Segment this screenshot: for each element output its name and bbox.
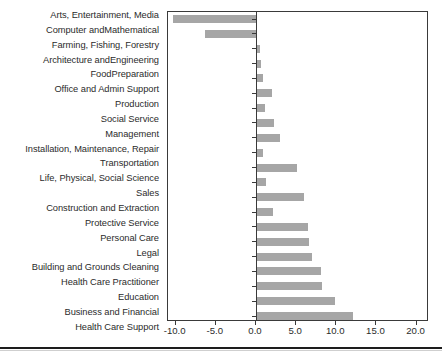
plot-area [167, 11, 428, 321]
bar [257, 74, 263, 82]
bar [257, 238, 309, 246]
category-label: Transportation [0, 156, 163, 171]
bar-row [168, 71, 427, 86]
bar [257, 208, 273, 216]
category-label: Management [0, 127, 163, 142]
bar-row [168, 146, 427, 161]
x-axis-tick-label: 15.0 [366, 325, 385, 336]
category-label: Health Care Practitioner [0, 275, 163, 290]
bar-row [168, 57, 427, 72]
bar-row [168, 27, 427, 42]
x-axis-tick-label: -10.0 [164, 325, 186, 336]
x-axis-tick-label: 5.0 [288, 325, 301, 336]
bar [257, 104, 265, 112]
category-label: Building and Grounds Cleaning [0, 260, 163, 275]
bar-row [168, 190, 427, 205]
bar-row [168, 235, 427, 250]
x-axis-tick-label: 10.0 [326, 325, 345, 336]
bar-chart: Arts, Entertainment, MediaComputer andMa… [0, 0, 442, 357]
x-axis-tick-label: 0.0 [248, 325, 261, 336]
bars-layer [168, 12, 427, 320]
bar-row [168, 279, 427, 294]
bar [173, 15, 256, 23]
bar-row [168, 309, 427, 321]
bar-row [168, 116, 427, 131]
category-label: Protective Service [0, 216, 163, 231]
category-label: Legal [0, 246, 163, 261]
category-label: Education [0, 290, 163, 305]
bar-row [168, 294, 427, 309]
x-axis-tick-labels: -10.0-5.00.05.010.015.020.0 [167, 325, 428, 341]
bar [205, 30, 256, 38]
bar-row [168, 101, 427, 116]
category-label: Computer andMathematical [0, 23, 163, 38]
bar-row [168, 220, 427, 235]
bar [257, 178, 266, 186]
category-label: Business and Financial [0, 305, 163, 320]
category-label: Office and Admin Support [0, 82, 163, 97]
category-label: Personal Care [0, 231, 163, 246]
category-axis-labels: Arts, Entertainment, MediaComputer andMa… [0, 8, 163, 320]
bar [257, 164, 297, 172]
bar [257, 223, 308, 231]
bar [257, 267, 321, 275]
category-label: Life, Physical, Social Science [0, 171, 163, 186]
category-label: FoodPreparation [0, 67, 163, 82]
category-label: Production [0, 97, 163, 112]
bar [257, 282, 322, 290]
bar [257, 149, 263, 157]
bar [257, 134, 280, 142]
category-label: Installation, Maintenance, Repair [0, 142, 163, 157]
category-label: Arts, Entertainment, Media [0, 8, 163, 23]
bar-row [168, 250, 427, 265]
bar [257, 253, 312, 261]
bar [257, 297, 335, 305]
bottom-divider-rule [0, 347, 442, 349]
bar-row [168, 175, 427, 190]
bar-row [168, 264, 427, 279]
category-label: Social Service [0, 112, 163, 127]
bar [257, 60, 261, 68]
category-label: Architecture andEngineering [0, 53, 163, 68]
bar [257, 119, 274, 127]
x-axis-tick-label: 20.0 [406, 325, 425, 336]
category-label: Construction and Extraction [0, 201, 163, 216]
bar-row [168, 42, 427, 57]
bar-row [168, 12, 427, 27]
zero-axis-line [256, 12, 257, 320]
category-label: Sales [0, 186, 163, 201]
category-label: Farming, Fishing, Forestry [0, 38, 163, 53]
bar-row [168, 205, 427, 220]
bar [257, 89, 272, 97]
category-label: Health Care Support [0, 320, 163, 335]
bar [257, 45, 260, 53]
bar-row [168, 161, 427, 176]
bar-row [168, 131, 427, 146]
bar [257, 312, 353, 320]
bar [257, 193, 304, 201]
bottom-divider-rule-shadow [0, 350, 442, 351]
x-axis-tick-label: -5.0 [207, 325, 224, 336]
bar-row [168, 86, 427, 101]
